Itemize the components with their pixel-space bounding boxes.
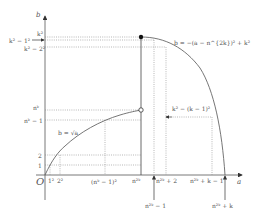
parabola-curve-label: b = −(a − n^{2k})² + k² bbox=[174, 39, 250, 46]
x-tick-nk-minus-1-sq: (nᵏ − 1)² bbox=[91, 178, 117, 185]
open-point bbox=[139, 108, 143, 112]
x-tick-n2k: n²ᵏ bbox=[132, 177, 140, 184]
origin-label: O bbox=[36, 178, 44, 185]
y-tick-nk: nᵏ bbox=[33, 104, 39, 111]
x-tick-1-sq: 1² bbox=[48, 177, 54, 184]
x-tick-n2k-plus-k: n²ᵏ + k bbox=[212, 202, 233, 209]
x-tick-n2k-plus-2: n²ᵏ + 2 bbox=[156, 177, 177, 184]
x-tick-2-sq: 2² bbox=[57, 177, 63, 184]
diagram-root: b a O k² k² − 1² k² − 2² nᵏ nᵏ − 1 2 1 1… bbox=[0, 0, 255, 218]
parabola-value-label: k² − (k − 1)² bbox=[172, 105, 210, 112]
x-tick-n2k-minus-1: n²ᵏ − 1 bbox=[145, 202, 166, 209]
y-tick-k2-minus-1: k² − 1² bbox=[9, 37, 30, 44]
y-axis-label: b bbox=[36, 12, 40, 19]
y-tick-k2-minus-2: k² − 2² bbox=[24, 45, 45, 52]
y-tick-1: 1 bbox=[38, 162, 42, 169]
y-tick-nk-minus-1: nᵏ − 1 bbox=[24, 117, 43, 124]
sqrt-curve-label: b = √a bbox=[58, 129, 78, 136]
y-tick-k2: k² bbox=[37, 30, 43, 37]
y-tick-2: 2 bbox=[38, 152, 42, 159]
x-tick-n2k-plus-k-minus-1: n²ᵏ + k − 1 bbox=[190, 177, 224, 184]
filled-point bbox=[139, 35, 143, 39]
x-axis-label: a bbox=[237, 179, 241, 186]
